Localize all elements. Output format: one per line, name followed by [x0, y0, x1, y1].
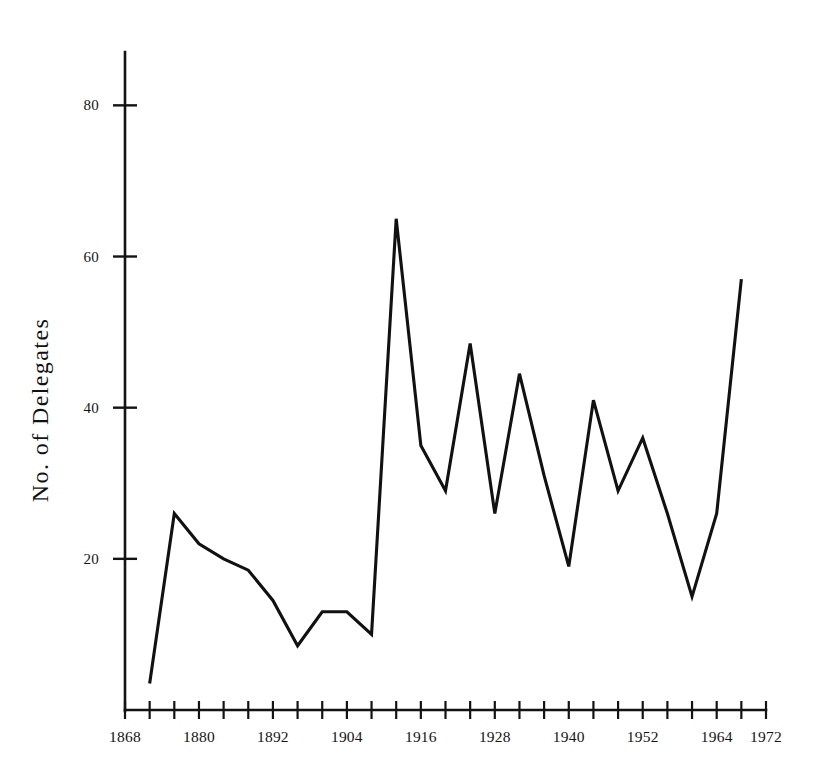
- delegates-series-line: [150, 219, 742, 684]
- y-tick-label-60: 60: [83, 249, 99, 265]
- line-chart-canvas: 20406080 1868188018921904191619281940195…: [0, 0, 827, 771]
- x-tick-label-1892: 1892: [257, 728, 289, 745]
- x-tick-label-1880: 1880: [183, 728, 215, 745]
- x-tick-label-1868: 1868: [109, 728, 141, 745]
- x-tick-label-1904: 1904: [331, 728, 363, 745]
- chart-figure: 20406080 1868188018921904191619281940195…: [0, 0, 827, 771]
- x-tick-label-1928: 1928: [479, 728, 511, 745]
- y-tick-label-40: 40: [83, 400, 99, 416]
- y-tick-group: 20406080: [83, 97, 137, 566]
- x-tick-label-1964: 1964: [701, 728, 733, 745]
- x-tick-label-1972: 1972: [750, 728, 782, 745]
- x-tick-label-1916: 1916: [405, 728, 437, 745]
- y-tick-label-20: 20: [83, 551, 99, 567]
- x-tick-label-1940: 1940: [553, 728, 585, 745]
- x-tick-label-1952: 1952: [627, 728, 659, 745]
- y-axis-title: No. of Delegates: [27, 318, 53, 502]
- x-tick-label-group: 1868188018921904191619281940195219641972: [109, 728, 782, 745]
- y-tick-label-80: 80: [83, 97, 99, 113]
